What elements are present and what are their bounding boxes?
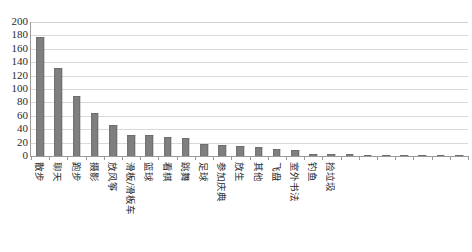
bar xyxy=(273,149,281,156)
x-axis-tick-label: 放生 xyxy=(235,162,245,182)
bar-slot xyxy=(286,22,304,156)
x-axis-tick xyxy=(304,156,305,160)
bar-slot xyxy=(413,22,431,156)
x-axis-tick-label: 看棋 xyxy=(162,162,172,182)
bar-slot xyxy=(195,22,213,156)
bar xyxy=(218,145,226,156)
x-axis-tick-label: 滑板/滑板车 xyxy=(126,162,136,215)
x-axis-tick-label: 其他 xyxy=(253,162,263,182)
bar xyxy=(54,68,62,156)
x-axis-tick xyxy=(268,156,269,160)
x-axis-tick xyxy=(31,156,32,160)
x-axis-tick xyxy=(49,156,50,160)
x-axis-tick-label: 放风筝 xyxy=(107,162,117,192)
bar xyxy=(91,113,99,156)
x-axis-tick-label: 钓鱼 xyxy=(308,162,318,182)
x-axis-tick xyxy=(158,156,159,160)
x-axis-tick xyxy=(359,156,360,160)
bar-slot xyxy=(49,22,67,156)
x-axis-ticks xyxy=(31,156,468,161)
bar xyxy=(109,125,117,156)
x-axis-tick-label: 摄影 xyxy=(89,162,99,182)
bar-slot xyxy=(140,22,158,156)
bars-layer xyxy=(31,22,468,156)
x-axis-tick-label: 聊天 xyxy=(53,162,63,182)
y-axis-tick-label: 20 xyxy=(2,137,28,148)
bar-slot xyxy=(341,22,359,156)
x-axis-tick-label: 参加庆典 xyxy=(217,162,227,202)
bar-slot xyxy=(213,22,231,156)
x-axis-tick xyxy=(322,156,323,160)
bar-slot xyxy=(304,22,322,156)
y-axis-tick-label: 80 xyxy=(2,96,28,107)
x-axis-tick xyxy=(377,156,378,160)
x-axis-tick-label: 跳舞 xyxy=(180,162,190,182)
y-axis-tick-label: 140 xyxy=(2,56,28,67)
x-axis-tick xyxy=(468,156,469,160)
bar xyxy=(237,146,245,156)
x-axis-tick-label: 跑步 xyxy=(71,162,81,182)
y-axis-tick-label: 0 xyxy=(2,150,28,161)
bar xyxy=(200,144,208,156)
bar xyxy=(164,137,172,156)
bar-slot xyxy=(67,22,85,156)
x-axis-tick xyxy=(140,156,141,160)
bar-slot xyxy=(359,22,377,156)
bar xyxy=(182,138,190,156)
bar-slot xyxy=(231,22,249,156)
bar-slot xyxy=(377,22,395,156)
x-axis-tick-label: 篮球 xyxy=(144,162,154,182)
bar-slot xyxy=(104,22,122,156)
bar xyxy=(36,37,44,156)
y-axis-tick-label: 60 xyxy=(2,110,28,121)
bar-chart: 200180160140120100806040200 散步聊天跑步摄影放风筝滑… xyxy=(0,0,472,252)
x-axis-tick xyxy=(86,156,87,160)
bar-slot xyxy=(450,22,468,156)
bar-slot xyxy=(250,22,268,156)
x-axis-tick xyxy=(286,156,287,160)
x-axis-tick xyxy=(122,156,123,160)
x-axis-tick xyxy=(177,156,178,160)
bar xyxy=(127,135,135,156)
bar-slot xyxy=(268,22,286,156)
x-axis-labels: 散步聊天跑步摄影放风筝滑板/滑板车篮球看棋跳舞足球参加庆典放生其他飞盘室外书法钓… xyxy=(31,162,468,252)
x-axis-tick-label: 捡垃圾 xyxy=(326,162,336,192)
bar-slot xyxy=(158,22,176,156)
y-axis-tick-label: 160 xyxy=(2,43,28,54)
bar-slot xyxy=(177,22,195,156)
bar xyxy=(255,147,263,156)
x-axis-tick-label: 飞盘 xyxy=(271,162,281,182)
bar-slot xyxy=(31,22,49,156)
x-axis-tick xyxy=(195,156,196,160)
bar xyxy=(73,96,81,156)
y-axis-labels: 200180160140120100806040200 xyxy=(0,0,28,252)
x-axis-tick xyxy=(231,156,232,160)
x-axis-tick xyxy=(450,156,451,160)
bar-slot xyxy=(432,22,450,156)
bar-slot xyxy=(86,22,104,156)
x-axis-tick-label: 足球 xyxy=(198,162,208,182)
y-axis-tick-label: 180 xyxy=(2,29,28,40)
y-axis-tick-label: 40 xyxy=(2,123,28,134)
bar-slot xyxy=(395,22,413,156)
x-axis-tick-label: 散步 xyxy=(35,162,45,182)
x-axis-tick xyxy=(250,156,251,160)
bar xyxy=(146,135,154,156)
x-axis-tick xyxy=(213,156,214,160)
bar-slot xyxy=(122,22,140,156)
x-axis-tick xyxy=(67,156,68,160)
x-axis-tick xyxy=(341,156,342,160)
x-axis-tick-label: 室外书法 xyxy=(290,162,300,202)
x-axis-tick xyxy=(104,156,105,160)
x-axis-tick xyxy=(395,156,396,160)
y-axis-tick-label: 100 xyxy=(2,83,28,94)
x-axis-tick xyxy=(413,156,414,160)
y-axis-tick-label: 120 xyxy=(2,70,28,81)
x-axis-tick xyxy=(432,156,433,160)
bar-slot xyxy=(322,22,340,156)
y-axis-tick-label: 200 xyxy=(2,16,28,27)
